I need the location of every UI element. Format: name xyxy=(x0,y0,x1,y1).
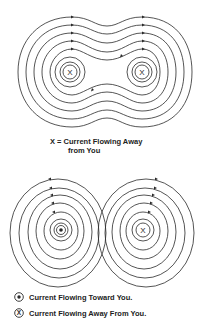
top-field-diagram: X X xyxy=(0,0,203,135)
conductor-away-icon: X xyxy=(67,68,73,77)
legend-item-toward: Current Flowing Toward You. xyxy=(14,292,132,302)
caption-line-2: from You xyxy=(50,146,142,155)
legend-item-away: X Current Flowing Away From You. xyxy=(14,308,146,318)
conductor-toward-icon xyxy=(59,228,63,232)
separate-field-lines xyxy=(10,179,194,287)
bottom-field-diagram: X xyxy=(0,170,203,290)
dot-in-circle-icon xyxy=(14,292,24,302)
caption-line-1: X = Current Flowing Away xyxy=(50,137,142,146)
x-in-circle-icon: X xyxy=(14,308,24,318)
legend-label: Current Flowing Away From You. xyxy=(29,309,146,318)
svg-text:X: X xyxy=(17,309,22,316)
conductor-away-icon: X xyxy=(140,226,146,235)
combined-field-lines xyxy=(18,17,192,127)
top-caption: X = Current Flowing Away from You xyxy=(50,137,142,155)
conductor-away-icon: X xyxy=(139,68,145,77)
legend-label: Current Flowing Toward You. xyxy=(29,293,132,302)
